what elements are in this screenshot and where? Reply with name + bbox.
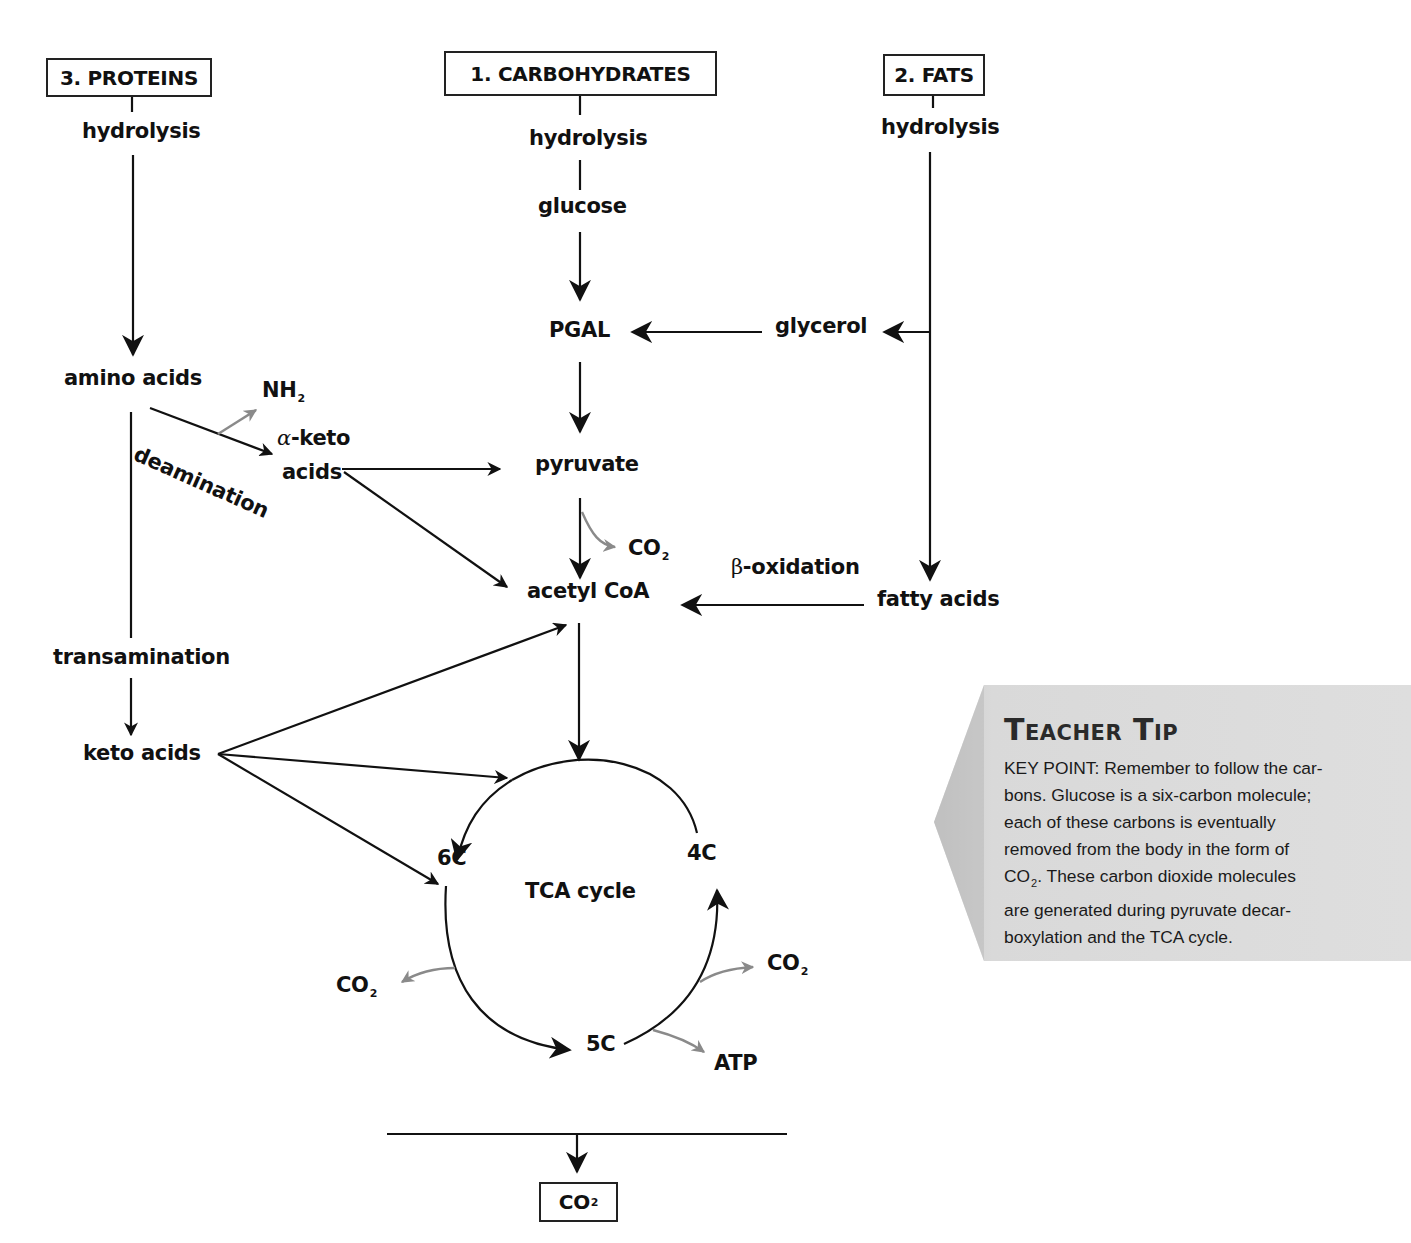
arrow-nh2-release bbox=[218, 410, 256, 434]
co2-left-label: CO2 bbox=[336, 975, 377, 999]
fats-box: 2. FATS bbox=[883, 54, 985, 96]
tip-line: are generated during pyruvate decar- bbox=[1004, 897, 1404, 924]
tca-cycle-label: TCA cycle bbox=[525, 881, 636, 902]
tip-line: boxylation and the TCA cycle. bbox=[1004, 924, 1404, 951]
tca-arc-to-5c bbox=[445, 886, 570, 1050]
proteins-box: 3. PROTEINS bbox=[46, 58, 212, 97]
arrow-atp bbox=[653, 1030, 704, 1052]
glycerol-label: glycerol bbox=[775, 316, 867, 337]
arrow-keto-to-acetylcoa bbox=[218, 625, 566, 754]
proteins-label: 3. PROTEINS bbox=[60, 66, 198, 90]
carbohydrates-box: 1. CARBOHYDRATES bbox=[444, 51, 717, 96]
tip-line: CO2. These carbon dioxide molecules bbox=[1004, 863, 1404, 897]
tip-line: bons. Glucose is a six-carbon molecule; bbox=[1004, 782, 1404, 809]
arrow-co2-pyruvate bbox=[582, 512, 615, 547]
acetyl-coa-label: acetyl CoA bbox=[527, 581, 649, 602]
5c-label: 5C bbox=[586, 1034, 615, 1055]
arrow-keto-to-6c bbox=[218, 754, 438, 884]
fats-label: 2. FATS bbox=[894, 63, 974, 87]
tip-line: removed from the body in the form of bbox=[1004, 836, 1404, 863]
arrow-co2-right bbox=[700, 967, 753, 982]
carbohydrates-label: 1. CARBOHYDRATES bbox=[470, 62, 690, 86]
tip-line: KEY POINT: Remember to follow the car- bbox=[1004, 755, 1404, 782]
nh2-label: NH2 bbox=[262, 380, 305, 404]
arrow-keto-to-acetylcoa bbox=[344, 472, 507, 587]
co2-final-label: CO bbox=[559, 1190, 590, 1214]
alpha-keto-label: α-keto bbox=[277, 428, 350, 449]
proteins-hydrolysis-label: hydrolysis bbox=[82, 121, 201, 142]
co2-pyruvate-label: CO2 bbox=[628, 538, 669, 562]
keto-acids-label: keto acids bbox=[83, 743, 201, 764]
atp-label: ATP bbox=[714, 1053, 757, 1074]
pgal-label: PGAL bbox=[549, 320, 610, 341]
tca-arc-to-4c bbox=[624, 890, 717, 1044]
tip-line: each of these carbons is eventually bbox=[1004, 809, 1404, 836]
co2-final-box: CO2 bbox=[539, 1182, 618, 1222]
glucose-label: glucose bbox=[538, 196, 627, 217]
pathway-arrows bbox=[0, 0, 1411, 1243]
teacher-tip-title: Teacher Tip bbox=[1004, 712, 1178, 747]
6c-label: 6C bbox=[437, 848, 466, 869]
co2-right-label: CO2 bbox=[767, 953, 808, 977]
arrow-co2-left bbox=[402, 968, 455, 982]
pyruvate-label: pyruvate bbox=[535, 454, 639, 475]
teacher-tip-body: KEY POINT: Remember to follow the car- b… bbox=[1004, 755, 1404, 951]
tca-arc-top bbox=[512, 760, 697, 833]
arrow-deamination bbox=[150, 408, 272, 454]
fatty-acids-label: fatty acids bbox=[877, 589, 999, 610]
fats-hydrolysis-label: hydrolysis bbox=[881, 117, 1000, 138]
carb-hydrolysis-label: hydrolysis bbox=[529, 128, 648, 149]
beta-oxidation-label: β-oxidation bbox=[731, 557, 860, 578]
alpha-keto-acids-label: acids bbox=[282, 462, 342, 483]
arrow-keto-to-tca bbox=[218, 754, 507, 778]
4c-label: 4C bbox=[687, 843, 716, 864]
amino-acids-label: amino acids bbox=[64, 368, 202, 389]
transamination-label: transamination bbox=[53, 647, 230, 668]
